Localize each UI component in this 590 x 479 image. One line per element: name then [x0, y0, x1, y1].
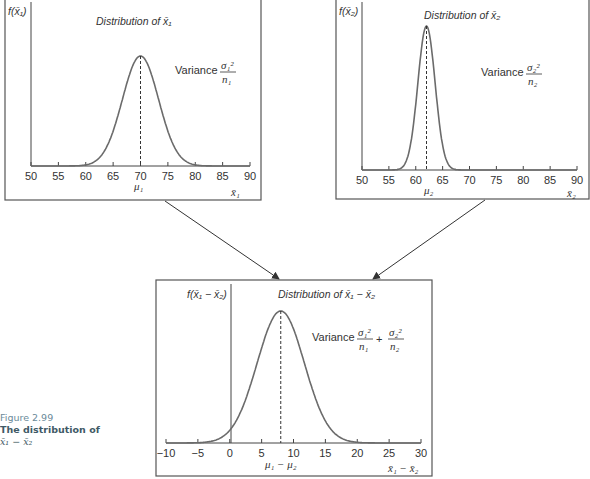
svg-text:60: 60 — [80, 170, 92, 182]
panel-frame — [336, 0, 589, 199]
svg-text:80: 80 — [189, 170, 201, 182]
x-tick-labels: 505560657075808590 — [25, 162, 256, 182]
figure-title: The distribution of — [0, 424, 100, 436]
svg-text:70: 70 — [463, 174, 475, 186]
arrow-from-x2 — [373, 200, 485, 279]
x-tick-labels: 505560657075808590 — [356, 166, 583, 186]
svg-text:25: 25 — [383, 447, 395, 459]
svg-text:30: 30 — [415, 447, 427, 459]
variance-denominator: n₂ — [528, 75, 538, 87]
variance-numerator-1: σ₁² — [358, 326, 371, 338]
variance-label: Variance — [175, 64, 218, 76]
svg-text:55: 55 — [383, 174, 395, 186]
panel-x2-distribution: 505560657075808590 f(x̄₂) Distribution o… — [336, 0, 589, 199]
svg-text:80: 80 — [517, 174, 529, 186]
y-axis-label: f(x̄₂) — [339, 5, 358, 17]
svg-text:55: 55 — [52, 170, 64, 182]
arrow-from-x1 — [165, 201, 279, 279]
svg-text:65: 65 — [437, 174, 449, 186]
x-axis-label: x̄₂ — [566, 187, 576, 199]
variance-denominator-2: n₂ — [390, 340, 400, 352]
panel-difference-distribution: −10−5051015202530 f(x̄₁ − x̄₂) Distribut… — [156, 280, 432, 476]
variance-numerator: σ₁² — [221, 59, 234, 71]
figure-canvas: 505560657075808590 f(x̄₁) Distribution o… — [0, 0, 590, 479]
svg-text:5: 5 — [259, 447, 265, 459]
mean-label: μ₁ − μ₂ — [264, 458, 297, 470]
variance-label: Variance — [481, 66, 524, 78]
variance-denominator-1: n₁ — [359, 340, 369, 352]
figure-number: Figure 2.99 — [0, 412, 100, 424]
variance-label: Variance — [312, 331, 355, 343]
svg-text:90: 90 — [571, 174, 583, 186]
density-curve — [166, 311, 421, 443]
panel-x1-distribution: 505560657075808590 f(x̄₁) Distribution o… — [5, 0, 261, 200]
panel-title: Distribution of x̄₁ − x̄₂ — [278, 288, 375, 300]
svg-text:−5: −5 — [192, 447, 205, 459]
panel-title: Distribution of x̄₁ — [96, 15, 172, 27]
svg-text:20: 20 — [351, 447, 363, 459]
density-curve — [362, 26, 577, 170]
figure-expression: x̄₁ − x̄₂ — [0, 436, 100, 448]
svg-text:50: 50 — [25, 170, 37, 182]
figure-caption: Figure 2.99 The distribution of x̄₁ − x̄… — [0, 412, 100, 448]
x-axis-label: x̄₁ − x̄₂ — [387, 462, 419, 474]
variance-denominator: n₁ — [222, 73, 232, 85]
mean-label: μ₁ — [133, 180, 144, 192]
y-axis-label: f(x̄₁) — [8, 5, 26, 17]
svg-text:−10: −10 — [157, 447, 176, 459]
x-axis-label: x̄₁ — [230, 186, 240, 198]
mean-label: μ₂ — [423, 184, 434, 196]
svg-text:65: 65 — [107, 170, 119, 182]
panel-title: Distribution of x̄₂ — [424, 9, 500, 21]
y-axis-label: f(x̄₁ − x̄₂) — [187, 288, 227, 300]
plus-sign: + — [376, 333, 382, 345]
svg-text:85: 85 — [544, 174, 556, 186]
svg-text:75: 75 — [162, 170, 174, 182]
svg-text:60: 60 — [410, 174, 422, 186]
svg-text:85: 85 — [217, 170, 229, 182]
svg-text:0: 0 — [227, 447, 233, 459]
svg-text:90: 90 — [244, 170, 256, 182]
variance-numerator: σ₂² — [527, 61, 540, 73]
svg-text:75: 75 — [490, 174, 502, 186]
svg-text:15: 15 — [319, 447, 331, 459]
svg-text:50: 50 — [356, 174, 368, 186]
variance-numerator-2: σ₂² — [389, 326, 402, 338]
